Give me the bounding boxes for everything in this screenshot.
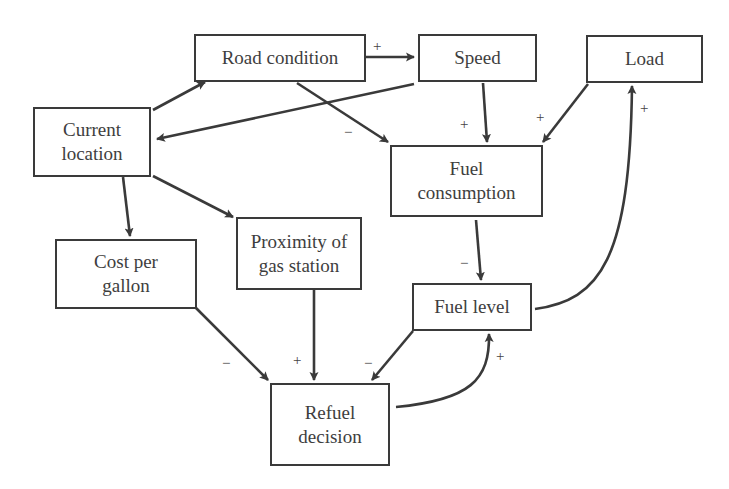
- sign-road-fuelcons: −: [344, 125, 352, 140]
- node-cost-per-gallon: Cost per gallon: [55, 239, 197, 309]
- sign-refuel-fuellevel: +: [496, 349, 504, 364]
- sign-fuellevel-load: +: [640, 101, 648, 116]
- node-current-location: Current location: [33, 107, 151, 177]
- node-label: Fuel level: [434, 295, 509, 319]
- sign-fuellevel-refuel: −: [364, 356, 372, 371]
- edge-fuellevel-to-load: [535, 86, 632, 309]
- sign-speed-fuelcons: +: [460, 117, 468, 132]
- node-label: Fuel consumption: [417, 157, 515, 205]
- node-label: Cost per gallon: [94, 250, 158, 298]
- node-refuel-decision: Refuel decision: [270, 383, 390, 466]
- node-label: Current location: [61, 118, 122, 166]
- node-fuel-consumption: Fuel consumption: [390, 145, 543, 217]
- sign-fuelcons-fuellevel: −: [460, 256, 468, 271]
- edge-location-to-road: [153, 82, 205, 110]
- node-label: Load: [625, 47, 664, 71]
- node-label: Proximity of gas station: [251, 230, 348, 278]
- node-proximity-gas-station: Proximity of gas station: [236, 217, 362, 290]
- node-label: Road condition: [222, 46, 339, 70]
- sign-road-speed: +: [373, 39, 381, 54]
- node-load: Load: [586, 35, 703, 83]
- edge-load-to-fuelcons: [543, 84, 588, 142]
- sign-load-fuelcons: +: [536, 110, 544, 125]
- node-fuel-level: Fuel level: [412, 283, 532, 331]
- node-road-condition: Road condition: [194, 34, 366, 82]
- edge-speed-to-location: [157, 84, 414, 139]
- sign-cost-refuel: −: [222, 356, 230, 371]
- edge-fuellevel-to-refuel: [372, 331, 413, 380]
- edge-location-to-cost: [123, 177, 130, 236]
- node-label: Refuel decision: [298, 401, 361, 449]
- node-speed: Speed: [418, 34, 537, 82]
- node-label: Speed: [454, 46, 500, 70]
- edge-fuelcons-to-fuellevel: [476, 220, 481, 280]
- edge-speed-to-fuelcons: [483, 83, 487, 142]
- edge-refuel-to-fuellevel: [396, 334, 489, 407]
- edge-cost-to-refuel: [196, 308, 268, 380]
- sign-prox-refuel: +: [293, 353, 301, 368]
- edge-location-to-proximity: [153, 176, 233, 217]
